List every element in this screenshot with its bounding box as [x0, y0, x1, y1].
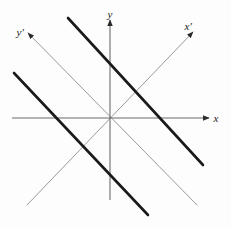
thick-line-lower [14, 73, 148, 215]
coordinate-diagram: x y x′ y′ [0, 0, 231, 228]
y-prime-axis-label: y′ [17, 27, 24, 38]
x-prime-axis-label: x′ [185, 21, 192, 32]
x-axis-label: x [214, 113, 219, 124]
diagram-canvas [0, 0, 231, 228]
y-axis-label: y [108, 9, 113, 20]
